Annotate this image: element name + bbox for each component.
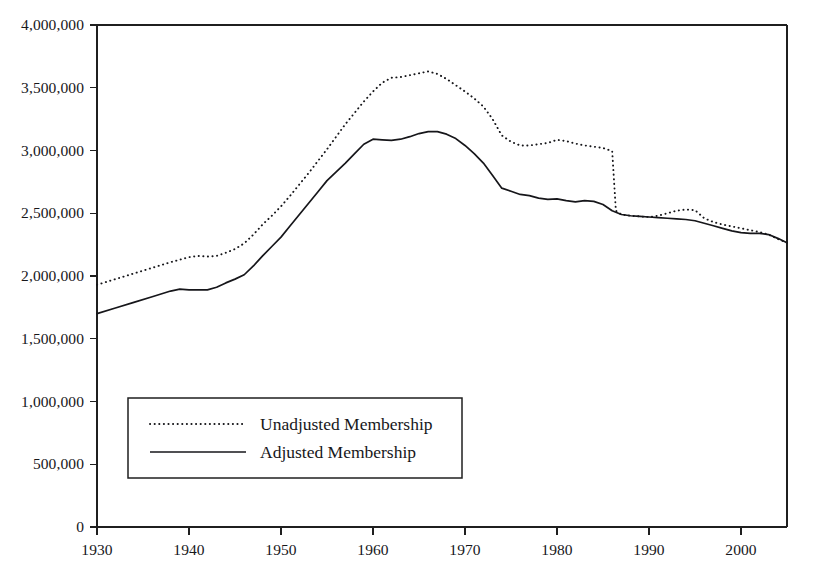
y-tick-label: 3,000,000 — [0, 142, 84, 160]
x-tick-label: 1950 — [265, 541, 296, 559]
legend-label-1: Unadjusted Membership — [260, 414, 433, 435]
legend-box — [128, 398, 462, 478]
series-line-1 — [97, 71, 787, 284]
chart-canvas — [0, 0, 822, 580]
y-tick-label: 2,500,000 — [0, 204, 84, 222]
y-tick-label: 1,000,000 — [0, 393, 84, 411]
x-tick-label: 1970 — [449, 541, 480, 559]
legend-graphics — [128, 398, 462, 478]
y-tick-label: 1,500,000 — [0, 330, 84, 348]
y-tick-label: 4,000,000 — [0, 16, 84, 34]
x-tick-label: 1960 — [357, 541, 388, 559]
data-series — [97, 71, 787, 313]
legend-label-2: Adjusted Membership — [260, 442, 416, 463]
y-tick-label: 500,000 — [0, 455, 84, 473]
x-tick-label: 1930 — [81, 541, 112, 559]
y-tick-label: 3,500,000 — [0, 79, 84, 97]
x-tick-label: 1990 — [633, 541, 664, 559]
x-tick-label: 1940 — [173, 541, 204, 559]
series-line-2 — [97, 132, 787, 314]
x-tick-label: 1980 — [541, 541, 572, 559]
x-tick-label: 2000 — [725, 541, 756, 559]
line-chart-figure: 0500,0001,000,0001,500,0002,000,0002,500… — [0, 0, 822, 580]
y-tick-label: 0 — [0, 518, 84, 536]
y-tick-label: 2,000,000 — [0, 267, 84, 285]
